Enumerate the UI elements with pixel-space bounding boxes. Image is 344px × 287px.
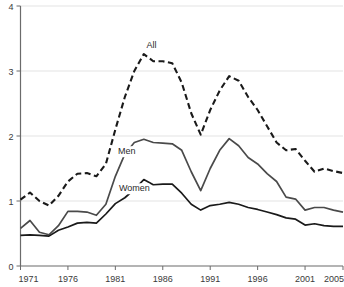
x-tick-label-1976: 1976 xyxy=(58,274,78,284)
chart-canvas: 01234 19711976198119861991199620012005 A… xyxy=(0,0,344,287)
y-tick-label-3: 3 xyxy=(8,67,13,77)
series-line-men xyxy=(21,139,344,235)
y-tick-label-1: 1 xyxy=(8,197,13,207)
x-tick-label-2001: 2001 xyxy=(295,274,315,284)
y-tick-label-4: 4 xyxy=(8,2,13,12)
series-label-all: All xyxy=(146,40,156,50)
x-tick-label-1991: 1991 xyxy=(200,274,220,284)
x-axis xyxy=(21,266,344,270)
series-line-women xyxy=(21,180,344,237)
y-tick-label-2: 2 xyxy=(8,132,13,142)
x-tick-label-1986: 1986 xyxy=(153,274,173,284)
x-tick-label-1996: 1996 xyxy=(248,274,268,284)
line-chart: 01234 19711976198119861991199620012005 A… xyxy=(0,0,344,287)
x-tick-labels: 19711976198119861991199620012005 xyxy=(19,274,344,284)
y-tick-label-0: 0 xyxy=(8,262,13,272)
y-tick-labels: 01234 xyxy=(8,2,13,272)
series-line-all xyxy=(21,54,344,205)
x-tick-label-2005: 2005 xyxy=(324,274,344,284)
series-lines xyxy=(21,54,344,236)
x-tick-label-1981: 1981 xyxy=(105,274,125,284)
gridlines xyxy=(21,6,344,201)
series-label-women: Women xyxy=(119,183,150,193)
y-axis xyxy=(17,6,21,266)
series-label-men: Men xyxy=(118,146,136,156)
x-tick-label-1971: 1971 xyxy=(19,274,39,284)
